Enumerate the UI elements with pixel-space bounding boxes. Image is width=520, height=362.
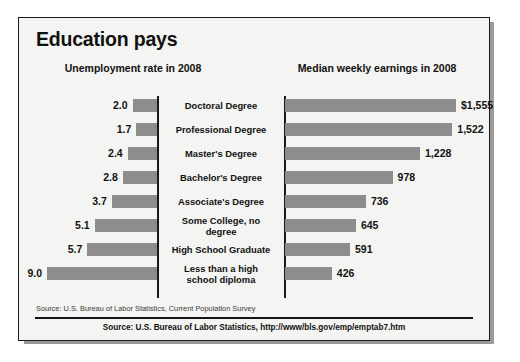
chart-rows: 2.0Doctoral Degree$1,5551.7Professional …: [19, 96, 489, 296]
earnings-value-label: $1,555: [461, 99, 493, 111]
earnings-value-label: 426: [337, 267, 355, 279]
left-panel-header: Unemployment rate in 2008: [35, 62, 231, 74]
category-label: Doctoral Degree: [161, 101, 281, 112]
earnings-bar: [285, 147, 420, 160]
category-label: Professional Degree: [161, 125, 281, 136]
unemployment-value-label: 3.7: [92, 195, 107, 207]
category-label: High School Graduate: [161, 245, 281, 256]
unemployment-value-label: 1.7: [117, 123, 132, 135]
unemployment-value-label: 9.0: [27, 267, 42, 279]
unemployment-bar: [133, 99, 157, 112]
earnings-bar: [285, 123, 452, 136]
earnings-value-label: 1,228: [425, 147, 451, 159]
unemployment-bar: [47, 267, 157, 280]
chart-page: Education pays Unemployment rate in 2008…: [0, 0, 520, 362]
category-label: Associate's Degree: [161, 197, 281, 208]
right-panel-header: Median weekly earnings in 2008: [277, 62, 477, 74]
earnings-bar: [285, 267, 332, 280]
unemployment-bar: [87, 243, 157, 256]
unemployment-bar: [95, 219, 157, 232]
unemployment-bar: [123, 171, 157, 184]
education-pays-card: Education pays Unemployment rate in 2008…: [18, 17, 490, 341]
category-label: Master's Degree: [161, 149, 281, 160]
earnings-bar: [285, 243, 350, 256]
earnings-value-label: 591: [355, 243, 373, 255]
earnings-bar: [285, 219, 356, 232]
chart-row: 9.0Less than a highschool diploma426: [19, 264, 489, 288]
earnings-value-label: 645: [361, 219, 379, 231]
source-bold-line: Source: U.S. Bureau of Labor Statistics,…: [19, 323, 489, 332]
category-label: Some College, nodegree: [161, 216, 281, 237]
unemployment-value-label: 2.4: [108, 147, 123, 159]
unemployment-value-label: 2.8: [103, 171, 118, 183]
earnings-bar: [285, 195, 366, 208]
earnings-value-label: 978: [398, 171, 416, 183]
chart-row: 2.8Bachelor's Degree978: [19, 168, 489, 192]
unemployment-value-label: 2.0: [113, 99, 128, 111]
category-label: Less than a highschool diploma: [161, 264, 281, 285]
unemployment-value-label: 5.1: [75, 219, 90, 231]
chart-row: 2.0Doctoral Degree$1,555: [19, 96, 489, 120]
chart-row: 2.4Master's Degree1,228: [19, 144, 489, 168]
earnings-value-label: 1,522: [457, 123, 483, 135]
unemployment-bar: [128, 147, 157, 160]
chart-row: 1.7Professional Degree1,522: [19, 120, 489, 144]
chart-row: 3.7Associate's Degree736: [19, 192, 489, 216]
source-note: Source: U.S. Bureau of Labor Statistics,…: [36, 304, 255, 313]
category-label: Bachelor's Degree: [161, 173, 281, 184]
earnings-bar: [285, 171, 393, 184]
page-title: Education pays: [36, 28, 177, 51]
chart-row: 5.7High School Graduate591: [19, 240, 489, 264]
footer-divider: [35, 317, 473, 319]
unemployment-bar: [136, 123, 157, 136]
unemployment-value-label: 5.7: [68, 243, 83, 255]
earnings-value-label: 736: [371, 195, 389, 207]
earnings-bar: [285, 99, 456, 112]
chart-row: 5.1Some College, nodegree645: [19, 216, 489, 240]
unemployment-bar: [112, 195, 157, 208]
